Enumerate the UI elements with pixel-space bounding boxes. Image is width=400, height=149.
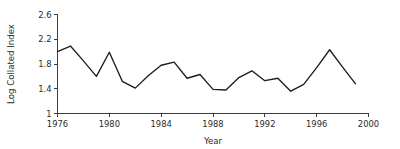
- y-tick-label: 1.8: [38, 59, 51, 69]
- y-axis-tick-labels: 11.41.82.22.6: [38, 10, 51, 119]
- x-axis-ticks: [58, 114, 369, 118]
- x-tick-label: 1980: [99, 119, 120, 129]
- x-tick-label: 1992: [254, 119, 275, 129]
- x-tick-label: 1988: [202, 119, 223, 129]
- y-tick-label: 2.2: [38, 34, 51, 44]
- y-axis-ticks: [54, 15, 58, 114]
- x-tick-label: 1976: [47, 119, 68, 129]
- y-tick-label: 1.4: [38, 84, 51, 94]
- x-tick-label: 2000: [358, 119, 379, 129]
- y-axis-title: Log Collated Index: [6, 24, 16, 104]
- data-series-line: [58, 46, 356, 91]
- x-tick-label: 1996: [306, 119, 327, 129]
- y-tick-label: 2.6: [38, 10, 51, 20]
- chart-figure: 11.41.82.22.6 19761980198419881992199620…: [0, 0, 400, 149]
- x-axis-tick-labels: 1976198019841988199219962000: [47, 119, 379, 129]
- line-chart: 11.41.82.22.6 19761980198419881992199620…: [0, 0, 400, 149]
- x-axis-title: Year: [203, 136, 223, 146]
- x-tick-label: 1984: [151, 119, 172, 129]
- y-tick-label: 1: [46, 109, 51, 119]
